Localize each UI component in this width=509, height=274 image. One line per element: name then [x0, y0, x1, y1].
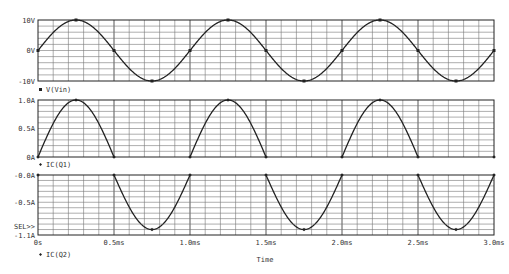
ytick-neg1p1a: -1.1A — [14, 232, 36, 240]
xtick-0: 0s — [34, 239, 42, 247]
ytick-neg10v: -10V — [18, 78, 36, 86]
xtick-3p0: 3.0ms — [483, 239, 504, 247]
data-marker — [113, 49, 116, 52]
ytick-neg0a: -0.0A — [14, 172, 36, 180]
data-marker — [417, 49, 420, 52]
sel-indicator[interactable]: SEL>> — [14, 223, 35, 231]
xtick-2p0: 2.0ms — [331, 239, 352, 247]
data-marker — [265, 49, 268, 52]
ytick-0p5a: 0.5A — [18, 125, 36, 133]
xtick-2p5: 2.5ms — [407, 239, 428, 247]
ytick-0a: 0A — [27, 154, 36, 162]
data-marker — [454, 228, 458, 232]
diamond-marker-icon — [39, 253, 42, 256]
ytick-0v: 0V — [27, 47, 36, 55]
data-marker — [302, 228, 306, 232]
x-axis-label: Time — [257, 256, 274, 264]
data-marker — [341, 49, 344, 52]
probe-plot: 10V 0V -10V V(Vin) 1.0A 0.5A 0A IC(Q1) -… — [0, 0, 509, 274]
x-axis: 0s 0.5ms 1.0ms 1.5ms 2.0ms 2.5ms 3.0ms T… — [34, 239, 505, 264]
legend-vin[interactable]: V(Vin) — [46, 86, 71, 94]
square-marker-icon — [39, 88, 42, 91]
ytick-10v: 10V — [22, 17, 35, 25]
plot-ic-q1: 1.0A 0.5A 0A IC(Q1) — [18, 97, 496, 169]
xtick-1p0: 1.0ms — [179, 239, 200, 247]
ytick-neg0p5a: -0.5A — [14, 199, 36, 207]
data-marker — [150, 228, 154, 232]
ytick-1a: 1.0A — [18, 97, 36, 105]
plot-vin: 10V 0V -10V V(Vin) — [18, 17, 495, 94]
legend-ic-q2[interactable]: IC(Q2) — [46, 251, 71, 259]
legend-ic-q1[interactable]: IC(Q1) — [46, 161, 71, 169]
xtick-1p5: 1.5ms — [255, 239, 276, 247]
data-marker — [189, 49, 192, 52]
xtick-0p5: 0.5ms — [103, 239, 124, 247]
diamond-marker-icon — [39, 163, 42, 166]
